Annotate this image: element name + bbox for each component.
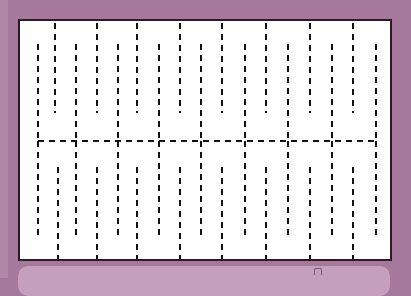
page-icon[interactable] [314, 268, 322, 275]
background-shade [0, 0, 8, 278]
tracing-worksheet-panel [18, 19, 392, 261]
bottom-bar [18, 266, 390, 296]
dashed-lines-pattern [20, 21, 390, 259]
